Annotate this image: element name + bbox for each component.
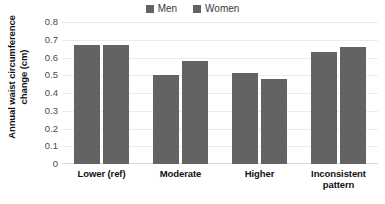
bar-women[interactable]: [340, 47, 366, 164]
legend-swatch-women: [193, 5, 201, 13]
bar-women[interactable]: [182, 61, 208, 164]
bar-women[interactable]: [261, 79, 287, 164]
chart-legend: Men Women: [0, 1, 385, 17]
bar-men[interactable]: [74, 45, 100, 164]
x-axis-category-label: Higher: [220, 168, 299, 202]
legend-entry-men: Men: [146, 4, 177, 14]
bar-group: [62, 22, 141, 164]
legend-label-women: Women: [205, 4, 239, 14]
y-axis-tick-label: 0: [53, 159, 58, 169]
legend-entry-women: Women: [193, 4, 239, 14]
bar-men[interactable]: [153, 75, 179, 164]
y-axis-tick-label: 0.2: [45, 124, 58, 134]
y-axis-tick-label: 0.7: [45, 35, 58, 45]
bar-group: [141, 22, 220, 164]
y-axis-tick-label: 0.4: [45, 88, 58, 98]
legend-label-men: Men: [158, 4, 177, 14]
x-axis-category-label: Lower (ref): [62, 168, 141, 202]
y-axis-tick-label: 0.8: [45, 17, 58, 27]
bar-men[interactable]: [232, 73, 258, 164]
bar-group: [220, 22, 299, 164]
legend-swatch-men: [146, 5, 154, 13]
x-axis-category-labels: Lower (ref)ModerateHigherInconsistent pa…: [62, 168, 378, 202]
y-axis-tick-label: 0.5: [45, 70, 58, 80]
bar-group: [299, 22, 378, 164]
y-axis-tick-label: 0.6: [45, 53, 58, 63]
x-axis-category-label: Moderate: [141, 168, 220, 202]
bar-men[interactable]: [311, 52, 337, 164]
bar-groups: [62, 22, 378, 164]
x-axis-category-label: Inconsistent pattern: [299, 168, 378, 202]
y-axis-tick-label: 0.3: [45, 106, 58, 116]
y-axis-tick-label: 0.1: [45, 141, 58, 151]
y-axis-tick-labels: 0.80.70.60.50.40.30.20.10: [24, 22, 58, 164]
plot-area: [62, 22, 378, 164]
bar-chart: Men Women Annual waist circumference cha…: [0, 0, 385, 204]
bar-women[interactable]: [103, 45, 129, 164]
